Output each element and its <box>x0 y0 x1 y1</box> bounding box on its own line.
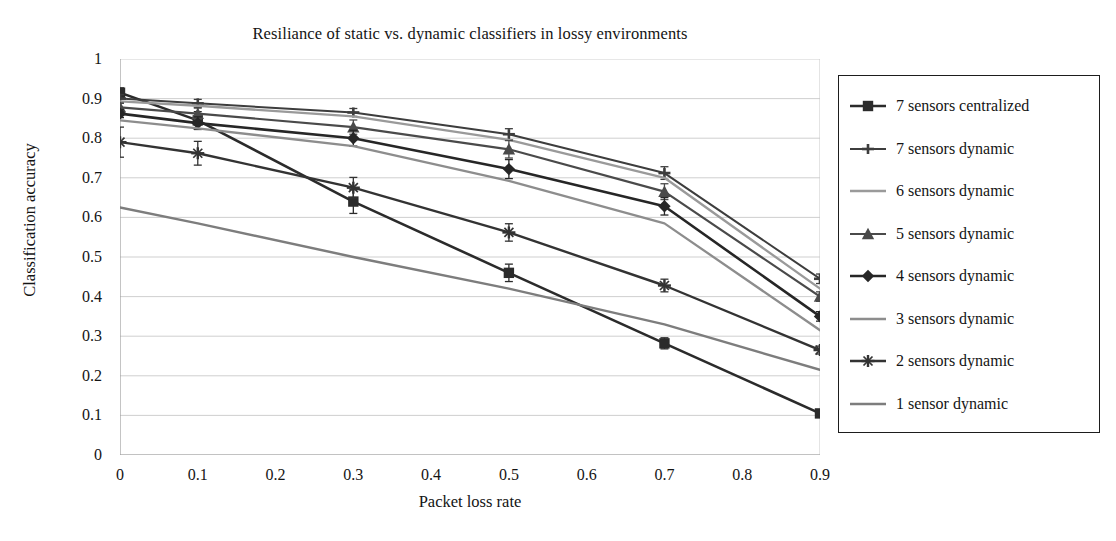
y-tick-label: 0.7 <box>82 169 102 187</box>
legend-item-label: 3 sensors dynamic <box>896 310 1014 328</box>
y-axis-title: Classification accuracy <box>20 50 40 390</box>
legend-item-1[interactable]: 7 sensors centralized <box>849 85 1089 128</box>
x-tick-label: 0.8 <box>732 466 752 484</box>
legend: 7 sensors centralized7 sensors dynamic6 … <box>838 75 1100 433</box>
page-title: Resiliance of static vs. dynamic classif… <box>120 24 820 44</box>
legend-swatch-plus-icon <box>849 141 887 157</box>
series-line <box>120 93 820 414</box>
x-tick-label: 0.1 <box>188 466 208 484</box>
plot-area <box>120 59 820 455</box>
x-tick-label: 0.2 <box>266 466 286 484</box>
legend-item-2[interactable]: 7 sensors dynamic <box>849 128 1089 171</box>
x-tick-label: 0.5 <box>499 466 519 484</box>
legend-item-label: 5 sensors dynamic <box>896 225 1014 243</box>
legend-swatch-diamond-icon <box>849 268 887 284</box>
x-tick-label: 0.6 <box>577 466 597 484</box>
legend-swatch-star-icon <box>849 353 887 369</box>
x-tick-label: 0.4 <box>421 466 441 484</box>
series-line <box>120 208 820 370</box>
series-marker <box>504 268 514 278</box>
plot-canvas <box>120 59 820 455</box>
x-axis-tick-labels: 00.10.20.30.40.50.60.70.80.9 <box>0 462 900 488</box>
y-tick-label: 0.5 <box>82 248 102 266</box>
legend-item-label: 6 sensors dynamic <box>896 182 1014 200</box>
series-marker <box>862 270 874 282</box>
legend-item-6[interactable]: 3 sensors dynamic <box>849 298 1089 341</box>
x-tick-label: 0.9 <box>810 466 830 484</box>
chart-figure: Resiliance of static vs. dynamic classif… <box>0 0 1116 541</box>
legend-item-label: 1 sensor dynamic <box>896 395 1008 413</box>
x-tick-label: 0.7 <box>654 466 674 484</box>
legend-swatch-line-icon <box>849 396 887 412</box>
series-1 <box>120 87 820 418</box>
y-tick-label: 0.3 <box>82 327 102 345</box>
legend-item-8[interactable]: 1 sensor dynamic <box>849 383 1089 426</box>
legend-item-label: 4 sensors dynamic <box>896 267 1014 285</box>
legend-item-3[interactable]: 6 sensors dynamic <box>849 170 1089 213</box>
series-marker <box>815 408 820 418</box>
legend-item-5[interactable]: 4 sensors dynamic <box>849 255 1089 298</box>
x-tick-label: 0 <box>116 466 124 484</box>
x-axis-title: Packet loss rate <box>120 492 820 512</box>
y-tick-label: 1 <box>94 50 102 68</box>
legend-item-label: 7 sensors centralized <box>896 97 1029 115</box>
y-tick-label: 0.1 <box>82 406 102 424</box>
series-marker <box>503 163 515 175</box>
y-axis-tick-labels: 00.10.20.30.40.50.60.70.80.91 <box>52 59 112 455</box>
series-group <box>120 87 820 418</box>
series-marker <box>659 338 669 348</box>
x-tick-label: 0.3 <box>343 466 363 484</box>
series-marker <box>863 101 873 111</box>
y-tick-label: 0.6 <box>82 208 102 226</box>
legend-item-label: 7 sensors dynamic <box>896 140 1014 158</box>
series-8 <box>120 208 820 370</box>
legend-item-7[interactable]: 2 sensors dynamic <box>849 340 1089 383</box>
legend-swatch-line-icon <box>849 311 887 327</box>
legend-item-4[interactable]: 5 sensors dynamic <box>849 213 1089 256</box>
y-tick-label: 0.4 <box>82 288 102 306</box>
legend-item-label: 2 sensors dynamic <box>896 352 1014 370</box>
y-tick-label: 0.8 <box>82 129 102 147</box>
legend-swatch-triangle-icon <box>849 226 887 242</box>
series-marker <box>347 132 359 144</box>
y-tick-label: 0.2 <box>82 367 102 385</box>
legend-swatch-square-icon <box>849 98 887 114</box>
y-tick-label: 0.9 <box>82 90 102 108</box>
legend-swatch-line-icon <box>849 183 887 199</box>
